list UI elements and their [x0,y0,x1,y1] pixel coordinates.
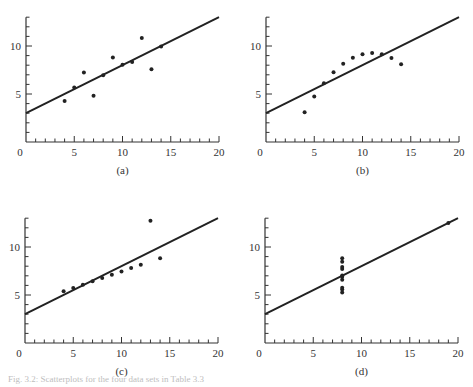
data-point [340,256,344,260]
data-point [120,269,124,273]
data-point [340,273,344,277]
scatterplot-c: 05101520510(c) [0,201,236,387]
data-point [62,289,66,293]
data-point [72,85,76,89]
x-tick-label: 15 [164,347,176,359]
data-point [111,55,115,59]
panel-label: (a) [116,164,129,177]
x-tick-label: 15 [404,347,416,359]
regression-line [266,17,459,113]
data-point [340,265,344,269]
data-point [140,36,144,40]
panel-label: (b) [356,164,369,177]
x-tick-label: 15 [165,146,177,158]
data-point [322,81,326,85]
data-point [159,44,163,48]
panel-label: (d) [355,365,368,378]
data-point [63,99,67,103]
x-tick-label: 0 [16,347,22,359]
data-point [380,52,384,56]
y-tick-label: 5 [16,88,22,100]
x-tick-label: 20 [213,347,225,359]
data-point [446,221,450,225]
y-tick-label: 5 [15,289,21,301]
x-tick-label: 10 [117,146,129,158]
data-point [91,279,95,283]
x-tick-label: 0 [17,146,23,158]
x-tick-label: 10 [116,347,128,359]
data-point [110,273,114,277]
data-point [399,62,403,66]
y-tick-label: 10 [249,241,261,253]
data-point [389,56,393,60]
data-points [303,51,404,114]
data-point [332,70,336,74]
data-point [100,276,104,280]
scatterplot-a: 05101520510(a) [0,0,236,190]
data-points [62,219,163,294]
x-tick-label: 5 [71,347,77,359]
data-point [361,52,365,56]
data-points [340,221,450,295]
data-point [351,56,355,60]
data-point [71,286,75,290]
data-point [340,286,344,290]
x-tick-label: 10 [357,146,369,158]
scatterplot-d: 05101520510(d) [240,201,473,387]
y-tick-label: 5 [256,88,262,100]
y-tick-label: 10 [9,241,21,253]
data-point [148,219,152,223]
data-point [303,110,307,114]
data-point [340,260,344,264]
axes: 05101520510 [9,218,224,359]
x-tick-label: 5 [312,146,318,158]
x-tick-label: 20 [453,347,465,359]
axes: 05101520510 [249,218,464,359]
data-point [92,94,96,98]
data-point [101,73,105,77]
axes: 05101520510 [10,17,225,158]
x-tick-label: 5 [72,146,78,158]
scatterplot-b: 05101520510(b) [240,0,473,190]
data-point [312,94,316,98]
x-tick-label: 10 [356,347,368,359]
x-tick-label: 0 [256,347,262,359]
x-tick-label: 15 [405,146,417,158]
data-point [370,51,374,55]
x-tick-label: 5 [311,347,317,359]
regression-line [265,218,458,314]
data-point [139,263,143,267]
regression-line [25,218,218,314]
y-tick-label: 5 [255,289,261,301]
figure-caption: Fig. 3.2: Scatterplots for the four data… [8,374,204,384]
data-point [341,62,345,66]
data-point [82,70,86,74]
x-tick-label: 20 [214,146,226,158]
y-tick-label: 10 [250,40,262,52]
x-tick-label: 20 [454,146,466,158]
data-point [130,60,134,64]
data-point [121,63,125,67]
data-point [81,283,85,287]
data-point [129,266,133,270]
x-tick-label: 0 [257,146,263,158]
data-point [158,256,162,260]
y-tick-label: 10 [10,40,22,52]
data-point [149,67,153,71]
axes: 05101520510 [250,17,465,158]
